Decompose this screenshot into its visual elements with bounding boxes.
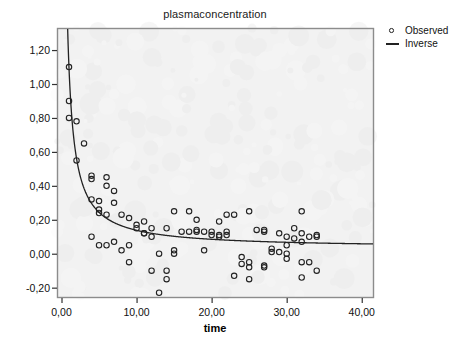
x-tick-label: 0,00 xyxy=(32,306,92,318)
x-tick-label: 30,00 xyxy=(257,306,317,318)
chart-legend: Observed Inverse xyxy=(386,24,448,50)
legend-item-observed: Observed xyxy=(386,24,448,37)
x-axis-tick-labels: 0,0010,0020,0030,0040,00 xyxy=(0,0,472,350)
legend-label-observed: Observed xyxy=(402,25,448,36)
line-segment-icon xyxy=(386,37,402,50)
legend-item-inverse: Inverse xyxy=(386,37,448,50)
legend-label-inverse: Inverse xyxy=(402,38,438,49)
open-circle-marker-icon xyxy=(386,24,402,37)
x-tick-label: 10,00 xyxy=(107,306,167,318)
x-tick-label: 20,00 xyxy=(182,306,242,318)
x-tick-label: 40,00 xyxy=(332,306,392,318)
x-axis-title: time xyxy=(57,322,373,334)
chart-container: plasmaconcentration -0,200,000,200,400,6… xyxy=(0,0,472,350)
